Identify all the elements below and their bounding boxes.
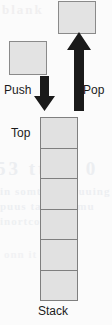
stack-cell bbox=[40, 239, 78, 271]
stack-cell bbox=[40, 209, 78, 241]
pop-arrow-icon bbox=[66, 32, 92, 115]
push-label: Push bbox=[4, 84, 31, 96]
popped-element-box bbox=[58, 1, 96, 34]
stack-cell bbox=[40, 117, 78, 149]
stack-column bbox=[40, 117, 78, 301]
bleed-text-line1: blank bbox=[2, 2, 44, 18]
pop-label: Pop bbox=[83, 84, 104, 96]
stack-cell bbox=[40, 148, 78, 180]
incoming-element-box bbox=[9, 41, 47, 75]
push-arrow-icon bbox=[33, 76, 57, 115]
stack-caption: Stack bbox=[38, 305, 68, 317]
stack-diagram: blank 53 tts 1 0 in somt tith wuuing puu… bbox=[0, 0, 112, 325]
stack-cell bbox=[40, 178, 78, 210]
bleed-text-line6: onn it bbox=[4, 248, 37, 260]
stack-cell bbox=[40, 270, 78, 302]
top-label: Top bbox=[11, 127, 30, 139]
